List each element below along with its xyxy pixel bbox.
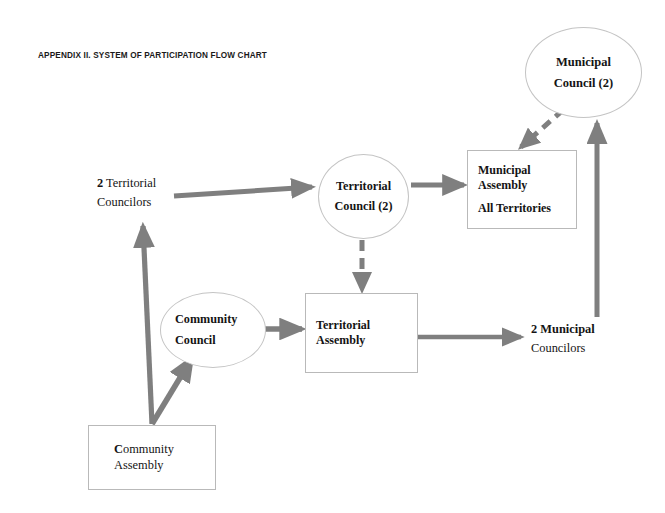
edge-community-assembly-to-community-council bbox=[152, 358, 192, 424]
label-territorial-councilors-line2: Councilors bbox=[97, 193, 156, 212]
node-municipal-council-line2: Council (2) bbox=[554, 75, 613, 91]
node-municipal-assembly[interactable]: Municipal Assembly All Territories bbox=[467, 150, 577, 229]
node-municipal-council-line1: Municipal bbox=[556, 54, 611, 70]
label-municipal-councilors-line2: Councilors bbox=[531, 339, 595, 358]
node-municipal-assembly-line2: Assembly bbox=[478, 178, 576, 193]
edge-municipal-council-to-municipal-assembly-dashed bbox=[521, 110, 563, 147]
node-territorial-council-line2: Council (2) bbox=[335, 199, 393, 215]
node-municipal-assembly-line3: All Territories bbox=[478, 201, 576, 216]
edge-community-assembly-to-territorial-councilors bbox=[143, 226, 152, 424]
node-territorial-council[interactable]: Territorial Council (2) bbox=[318, 154, 409, 239]
node-territorial-assembly[interactable]: Territorial Assembly bbox=[305, 293, 418, 373]
label-territorial-councilors: 2 Territorial Councilors bbox=[97, 174, 156, 211]
node-community-council-line2: Council bbox=[175, 333, 265, 349]
node-territorial-assembly-line2: Assembly bbox=[316, 333, 417, 348]
label-territorial-councilors-line1: 2 Territorial bbox=[97, 174, 156, 193]
node-community-assembly[interactable]: Community Assembly bbox=[88, 425, 216, 490]
node-community-assembly-capital: C bbox=[114, 442, 123, 456]
node-community-council[interactable]: Community Council bbox=[160, 292, 266, 368]
label-municipal-councilors-line1: 2 Municipal bbox=[531, 320, 595, 339]
node-municipal-council[interactable]: Municipal Council (2) bbox=[525, 27, 642, 118]
edge-territorial-councilors-to-territorial-council bbox=[174, 187, 312, 196]
label-territorial-councilors-line1-rest: Territorial bbox=[103, 176, 156, 190]
node-territorial-council-line1: Territorial bbox=[336, 179, 391, 195]
label-municipal-councilors: 2 Municipal Councilors bbox=[531, 320, 595, 357]
flow-chart-canvas: APPENDIX II. SYSTEM OF PARTICIPATION FLO… bbox=[0, 0, 665, 513]
node-community-assembly-line2: Assembly bbox=[114, 458, 215, 473]
node-territorial-assembly-line1: Territorial bbox=[316, 318, 417, 333]
node-community-assembly-line1-rest: ommunity bbox=[123, 442, 174, 456]
node-community-council-line1: Community bbox=[175, 312, 265, 328]
node-municipal-assembly-line1: Municipal bbox=[478, 163, 576, 178]
page-title: APPENDIX II. SYSTEM OF PARTICIPATION FLO… bbox=[38, 51, 267, 60]
node-community-assembly-line1: Community bbox=[114, 442, 215, 457]
